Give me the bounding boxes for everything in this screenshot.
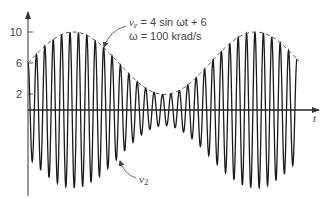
tick-label-6: 6 bbox=[16, 57, 22, 69]
t-axis-label: t bbox=[313, 112, 317, 124]
v2-label: v2 bbox=[139, 173, 148, 187]
omega-label: ω = 100 krad/s bbox=[129, 30, 202, 42]
v2-sub: 2 bbox=[144, 177, 149, 187]
tick-label-2: 2 bbox=[16, 88, 22, 100]
ve-annotation-arrow bbox=[104, 26, 126, 47]
am-waveform-chart: 10 6 2 t ve = 4 sin ωt + 6 ω = 100 krad/… bbox=[0, 0, 335, 199]
ve-equation-label: ve = 4 sin ωt + 6 bbox=[129, 16, 207, 30]
ve-rest: = 4 sin ωt + 6 bbox=[137, 16, 206, 28]
tick-label-10: 10 bbox=[10, 26, 22, 38]
v2-annotation-arrow bbox=[120, 161, 136, 178]
